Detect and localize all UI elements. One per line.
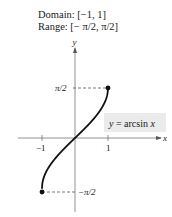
x-tick-label-neg1: −1 bbox=[36, 143, 46, 153]
y-axis-label: y bbox=[72, 37, 77, 47]
function-label: y = arcsin x bbox=[108, 118, 155, 129]
x-tick-label-1: 1 bbox=[106, 143, 111, 153]
y-tick-label-pi-half: π/2 bbox=[55, 83, 67, 93]
endpoint-top bbox=[106, 86, 111, 91]
x-axis-label: x bbox=[162, 133, 167, 143]
endpoint-bottom bbox=[40, 190, 45, 195]
y-tick-label-neg-pi-half: −π/2 bbox=[78, 187, 96, 197]
arcsin-graph: x y −1 1 π/2 −π/2 y = arcsin x bbox=[0, 0, 172, 217]
